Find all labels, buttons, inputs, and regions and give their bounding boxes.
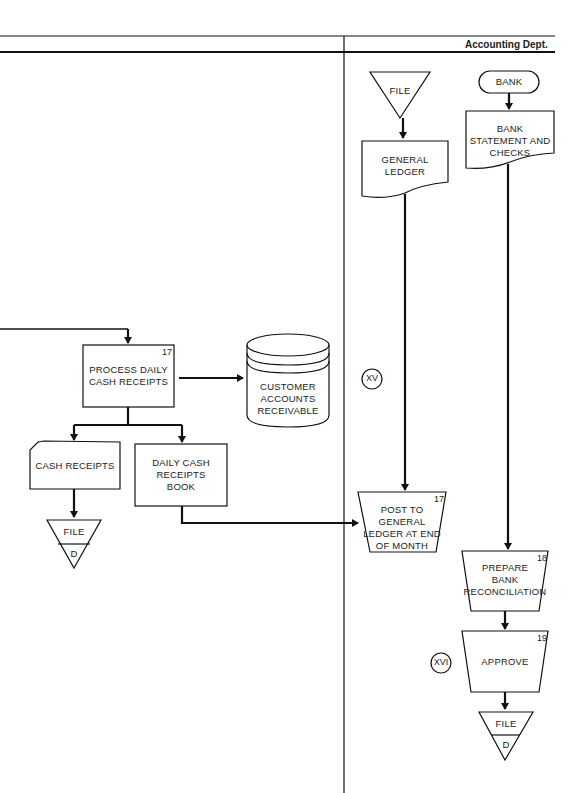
daily-book-label: DAILY CASH RECEIPTS BOOK [135,457,227,493]
approve-label: APPROVE [462,656,548,668]
bank-statement-label: BANK STATEMENT AND CHECKS [466,123,554,159]
customer-ar-label: CUSTOMER ACCOUNTS RECEIVABLE [247,381,329,417]
connector-xv-label: XV [362,373,382,383]
file-left-sub: D [47,548,101,560]
file-top-label: FILE [372,85,428,97]
file-bottom-label: FILE [479,718,533,730]
post-gl-label: POST TO GENERAL LEDGER AT END OF MONTH [358,504,446,552]
post-step-number: 17 [434,494,444,504]
process-daily-label: PROCESS DAILY CASH RECEIPTS [83,364,174,388]
connector-xvi-label: XVI [431,657,451,667]
cash-receipts-label: CASH RECEIPTS [30,460,120,472]
prepare-recon-label: PREPARE BANK RECONCILIATION [462,562,548,598]
bank-label: BANK [479,76,539,88]
file-left-label: FILE [47,526,101,538]
process-step-number: 17 [162,347,172,357]
file-bottom-sub: D [479,739,533,751]
department-header: Accounting Dept. [465,39,548,50]
general-ledger-label: GENERAL LEDGER [362,154,448,178]
approve-step-number: 19 [537,633,547,643]
